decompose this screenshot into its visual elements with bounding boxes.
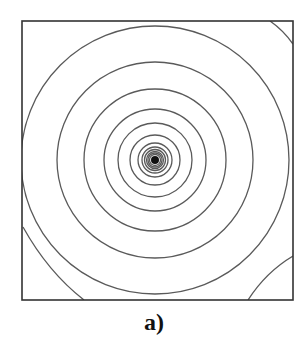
concentric-circles-figure — [0, 0, 308, 357]
center-disc — [151, 156, 159, 164]
corner-arc-bottom-right — [248, 256, 293, 300]
figure-label: a) — [0, 309, 308, 336]
corner-arc-bottom-left — [23, 227, 84, 300]
corner-arc-top-right — [270, 21, 293, 44]
